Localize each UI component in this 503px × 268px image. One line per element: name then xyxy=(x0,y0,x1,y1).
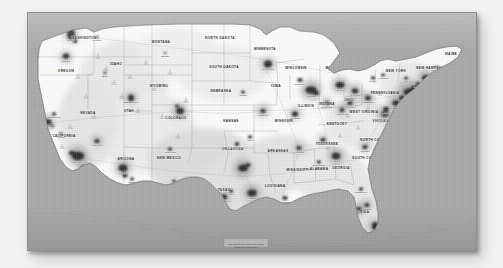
map-caption-block: Population Density of the United States … xyxy=(224,239,268,248)
city-label-fresno: Fresno xyxy=(57,136,65,138)
city-label-chicago: Chicago xyxy=(307,95,316,97)
city-label-st-louis: St. Louis xyxy=(291,117,301,119)
us-population-map: WASHINGTONOREGONCALIFORNIANEVADAIDAHOMON… xyxy=(28,13,477,251)
state-label-nv: NEVADA xyxy=(80,111,96,115)
city-label-baltimore: Baltimore xyxy=(381,112,391,114)
state-label-ks: KANSAS xyxy=(223,119,239,123)
state-label-la: LOUISIANA xyxy=(265,184,286,188)
state-label-mo: MISSOURI xyxy=(275,119,294,123)
state-label-co: COLORADO xyxy=(165,116,187,120)
city-label-nashville: Nashville xyxy=(318,143,328,145)
state-label-wy: WYOMING xyxy=(150,84,169,88)
state-label-tx: TEXAS xyxy=(218,188,230,192)
city-label-columbus: Columbus xyxy=(345,106,356,108)
city-label-cincinnati: Cincinnati xyxy=(337,113,348,115)
city-label-cleveland: Cleveland xyxy=(350,94,361,96)
city-label-rochester: Rochester xyxy=(378,77,389,79)
state-label-nm: NEW MEXICO xyxy=(157,156,182,160)
city-label-pittsburgh: Pittsburgh xyxy=(363,101,374,103)
city-label-jacksonville: Jacksonville xyxy=(355,191,368,193)
state-label-mn: MINNESOTA xyxy=(254,47,276,51)
caption-line-2: persons per square mile xyxy=(235,246,258,248)
state-label-wv: WEST VIRGINIA xyxy=(350,110,379,114)
city-label-portland: Portland xyxy=(62,60,71,62)
city-label-austin: Austin xyxy=(228,193,235,195)
city-label-houston: Houston xyxy=(248,197,257,199)
city-label-detroit: Detroit xyxy=(337,89,344,91)
city-label-spokane: Spokane xyxy=(92,39,102,41)
city-label-buffalo: Buffalo xyxy=(369,80,377,82)
city-label-charlotte: Charlotte xyxy=(360,150,370,152)
state-label-or: OREGON xyxy=(58,69,75,73)
city-label-kansas-city: Kansas City xyxy=(257,114,270,116)
state-label-ny: NEW YORK xyxy=(386,69,407,73)
state-label-oh: OHIO xyxy=(344,98,354,102)
state-label-nd: NORTH DAKOTA xyxy=(205,36,235,40)
state-label-ia: IOWA xyxy=(271,84,281,88)
city-label-salt-lake-city: Salt Lake City xyxy=(124,101,139,103)
city-label-memphis: Memphis xyxy=(294,151,304,153)
city-label-phoenix: Phoenix xyxy=(119,172,128,174)
city-label-birmingham: Birmingham xyxy=(313,164,325,166)
city-label-oklahoma-city: Oklahoma City xyxy=(229,146,245,148)
canvas-print: WASHINGTONOREGONCALIFORNIANEVADAIDAHOMON… xyxy=(27,12,477,251)
state-label-mt: MONTANA xyxy=(152,40,171,44)
city-label-atlanta: Atlanta xyxy=(332,160,340,162)
city-label-billings: Billings xyxy=(161,55,169,57)
state-label-ga: GEORGIA xyxy=(332,166,350,170)
city-label-los-angeles: Los Angeles xyxy=(72,161,85,163)
caption-line-1: Population Density of the United States xyxy=(228,243,264,245)
city-label-dallas: Dallas xyxy=(240,172,247,174)
city-label-indianapolis: Indianapolis xyxy=(321,106,334,108)
city-label-orlando: Orlando xyxy=(363,208,372,210)
city-label-sacramento: Sacramento xyxy=(48,116,61,118)
state-label-ut: UTAH xyxy=(124,109,134,113)
state-label-ne: NEBRASKA xyxy=(211,89,232,93)
city-label-boise: Boise xyxy=(102,75,108,77)
city-label-omaha: Omaha xyxy=(239,94,247,96)
state-label-az: ARIZONA xyxy=(118,157,135,161)
city-label-albany: Albany xyxy=(402,80,410,82)
state-label-ms: MISSISSIPPI xyxy=(287,168,310,172)
state-label-ar: ARKANSAS xyxy=(268,149,289,153)
city-label-denver: Denver xyxy=(176,114,184,116)
city-label-albuquerque: Albuquerque xyxy=(163,151,177,153)
city-label-milwaukee: Milwaukee xyxy=(295,83,307,85)
state-label-il: ILLINOIS xyxy=(298,104,314,108)
state-label-al: ALABAMA xyxy=(310,167,329,171)
state-label-sd: SOUTH DAKOTA xyxy=(209,65,239,69)
state-label-me: MAINE xyxy=(445,52,457,56)
city-label-seattle: Seattle xyxy=(67,39,75,41)
city-label-minneapolis: Minneapolis xyxy=(262,68,275,70)
city-label-las-vegas: Las Vegas xyxy=(92,144,104,146)
state-label-ky: KENTUCKY xyxy=(327,122,348,126)
state-label-wi: WISCONSIN xyxy=(285,66,307,70)
city-label-tulsa: Tulsa xyxy=(247,139,253,141)
state-label-id: IDAHO xyxy=(110,62,122,66)
state-label-pa: PENNSYLVANIA xyxy=(371,91,400,95)
